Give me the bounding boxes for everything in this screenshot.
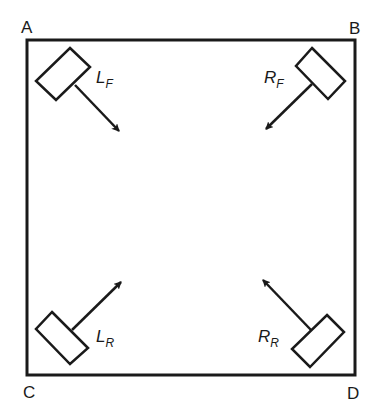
- wheel-left-front: LF: [36, 48, 119, 131]
- wheel-left-rear: LR: [36, 282, 121, 364]
- force-arrow-left-rear-icon: [72, 282, 121, 330]
- corner-label-b: B: [349, 19, 360, 38]
- corner-label-c: C: [23, 383, 35, 402]
- wheel-layout-diagram: A B C D LF RF LR RR: [0, 0, 373, 416]
- force-arrow-right-rear-icon: [263, 280, 311, 330]
- force-arrow-right-front-icon: [266, 84, 312, 129]
- wheel-label-right-front: RF: [264, 68, 284, 91]
- wheel-right-front: RF: [264, 48, 345, 129]
- wheel-label-left-front: LF: [96, 68, 113, 91]
- wheel-label-right-rear: RR: [258, 327, 279, 350]
- wheel-label-left-rear: LR: [96, 327, 114, 350]
- wheel-body-left-rear: [36, 312, 88, 364]
- wheel-body-right-rear: [292, 315, 344, 367]
- wheel-right-rear: RR: [258, 280, 344, 367]
- corner-label-a: A: [21, 18, 33, 37]
- corner-label-d: D: [347, 384, 359, 403]
- force-arrow-left-front-icon: [75, 85, 119, 131]
